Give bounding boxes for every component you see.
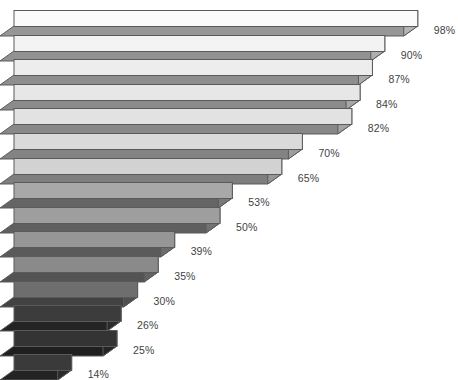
bar-front-face [14, 306, 121, 322]
bar-front-face [14, 84, 360, 100]
bar-value-label: 35% [174, 270, 195, 282]
bar-front-face [14, 330, 117, 346]
bar-value-label: 39% [191, 245, 212, 257]
bar-value-label: 87% [388, 73, 409, 85]
bar-value-label: 14% [88, 368, 109, 380]
bar-value-label: 84% [376, 98, 397, 110]
bar-front-face [14, 35, 385, 51]
bar-front-face [14, 355, 72, 371]
bar-value-label: 26% [137, 319, 158, 331]
chart-container: 98%90%87%84%82%70%65%53%50%39%35%30%26%2… [0, 0, 458, 380]
bar-front-face [14, 109, 352, 125]
bar-value-label: 82% [368, 122, 389, 134]
bar-3d-shape [0, 354, 74, 380]
bar-chart-plot-area: 98%90%87%84%82%70%65%53%50%39%35%30%26%2… [0, 0, 458, 380]
bar-front-face [14, 11, 418, 27]
bar-value-label: 50% [236, 221, 257, 233]
bar-value-label: 30% [154, 295, 175, 307]
bar-value-label: 25% [133, 344, 154, 356]
bar-front-face [14, 257, 158, 273]
bar-front-face [14, 232, 175, 248]
bar-value-label: 70% [318, 147, 339, 159]
bar-value-label: 90% [401, 49, 422, 61]
bar-front-face [14, 134, 302, 150]
bar-front-face [14, 207, 220, 223]
bar-front-face [14, 281, 138, 297]
bar-value-label: 65% [298, 172, 319, 184]
bar-front-face [14, 158, 282, 174]
bar-value-label: 98% [434, 24, 455, 36]
bar-value-label: 53% [248, 196, 269, 208]
bar-row[interactable] [0, 354, 74, 380]
bar-front-face [14, 60, 372, 76]
bar-front-face [14, 183, 232, 199]
